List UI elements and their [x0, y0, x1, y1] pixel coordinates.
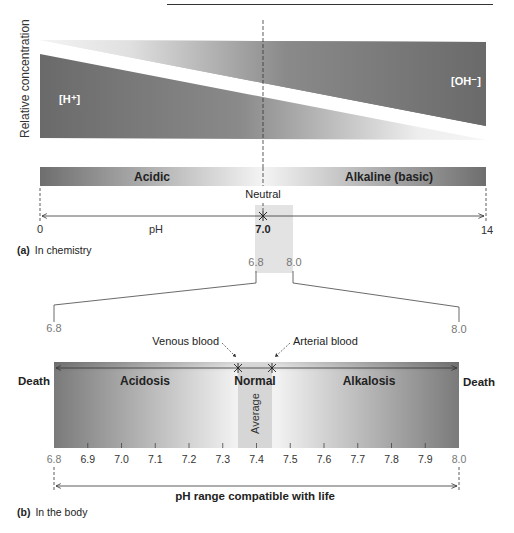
life-range-label: pH range compatible with life	[175, 490, 335, 502]
svg-text:6.9: 6.9	[80, 453, 95, 465]
y-axis-label: Relative concentration	[18, 19, 32, 138]
normal-label: Normal	[234, 374, 275, 388]
ph-axis-label: pH	[149, 223, 163, 235]
ph-neutral-value: 7.0	[255, 223, 270, 235]
svg-text:7.6: 7.6	[317, 453, 332, 465]
h-ion-label: [H⁺]	[59, 93, 81, 105]
svg-text:7.8: 7.8	[384, 453, 399, 465]
svg-text:6.8: 6.8	[47, 453, 62, 465]
acidosis-label: Acidosis	[120, 374, 170, 388]
average-label: Average	[249, 393, 261, 434]
zoom-bracket-right	[293, 271, 459, 322]
range-high-label: 8.0	[451, 323, 466, 335]
svg-text:7.5: 7.5	[283, 453, 298, 465]
death-left-label: Death	[18, 375, 50, 387]
acidic-label: Acidic	[134, 170, 170, 184]
svg-text:8.0: 8.0	[452, 453, 467, 465]
tick-labels: 6.8 6.9 7.0 7.1 7.2 7.3 7.4 7.5 7.6 7.7 …	[47, 453, 467, 465]
venous-blood-label: Venous blood	[152, 335, 219, 347]
caption-a: (a)In chemistry	[17, 244, 92, 256]
zoom-low-label: 6.8	[248, 256, 263, 268]
ph-max-label: 14	[481, 224, 493, 236]
caption-b: (b)In the body	[17, 506, 88, 518]
zoom-high-label: 8.0	[286, 256, 301, 268]
svg-text:7.7: 7.7	[350, 453, 365, 465]
oh-ion-label: [OH⁻]	[451, 75, 481, 87]
arterial-blood-label: Arterial blood	[293, 335, 358, 347]
death-right-label: Death	[463, 376, 495, 388]
neutral-label: Neutral	[245, 188, 280, 200]
ph-min-label: 0	[37, 223, 43, 235]
svg-text:7.2: 7.2	[182, 453, 197, 465]
ph-diagram: Relative concentration [H⁺] [OH⁻] Acidic…	[0, 0, 514, 533]
range-low-label: 6.8	[46, 322, 61, 334]
svg-text:7.9: 7.9	[418, 453, 433, 465]
arterial-pointer	[275, 343, 290, 357]
alkalosis-label: Alkalosis	[343, 374, 396, 388]
svg-text:7.3: 7.3	[215, 453, 230, 465]
svg-text:7.4: 7.4	[249, 453, 264, 465]
alkaline-label: Alkaline (basic)	[345, 170, 433, 184]
svg-text:7.0: 7.0	[114, 453, 129, 465]
svg-text:7.1: 7.1	[148, 453, 163, 465]
zoom-bracket-left	[54, 271, 256, 322]
venous-pointer	[222, 343, 236, 357]
